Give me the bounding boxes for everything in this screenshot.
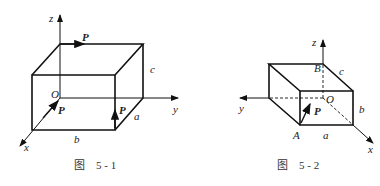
origin-label: O [326, 93, 334, 105]
box-top-edges [32, 44, 143, 75]
point-B-label: B [314, 62, 321, 74]
edge-c-label: c [150, 63, 155, 75]
force-P-A [301, 104, 310, 123]
force-P-origin [43, 101, 58, 118]
point-A-label: A [292, 129, 300, 141]
edge-b-label: b [74, 133, 80, 145]
figure-5-1-labels: z P c O P P a y b x 图 5 - 1 [23, 12, 178, 171]
edge-a-label: a [323, 129, 329, 141]
edge-b-label: b [359, 103, 365, 115]
caption-5-2: 图 5 - 2 [277, 159, 319, 171]
force-label: P [119, 104, 126, 116]
y-label: y [172, 103, 178, 115]
force-label: P [58, 104, 65, 116]
z-label: z [311, 36, 317, 48]
x-label: x [367, 143, 373, 155]
force-label: P [82, 31, 89, 43]
z-label: z [48, 12, 54, 24]
caption-5-1: 图 5 - 1 [74, 159, 116, 171]
box-left-edges [269, 64, 300, 125]
x-label: x [23, 141, 29, 153]
force-label: P [314, 105, 321, 117]
figure-5-1 [20, 15, 178, 146]
y-label: y [238, 102, 244, 114]
edge-a-label: a [134, 110, 140, 122]
box-front-face [32, 75, 115, 130]
origin-label: O [51, 88, 59, 100]
diagram-canvas: z P c O P P a y b x 图 5 - 1 z B c O y P … [0, 0, 380, 186]
x-axis [353, 125, 373, 143]
edge-c-label: c [339, 65, 344, 77]
figure-5-2 [240, 40, 373, 143]
